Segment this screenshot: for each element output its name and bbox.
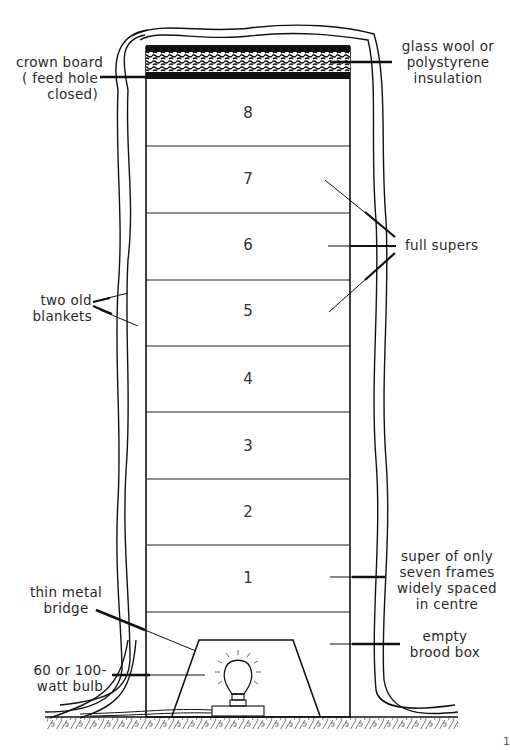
box-label-8: 8	[228, 104, 268, 122]
page-number: 1	[503, 735, 510, 748]
label-insulation: glass wool or polystyrene insulation	[392, 38, 504, 86]
box-label-7: 7	[228, 170, 268, 188]
label-blankets: two old blankets	[30, 292, 92, 324]
box-label-3: 3	[228, 437, 268, 455]
crown-board	[146, 72, 350, 79]
box-label-6: 6	[228, 236, 268, 254]
label-bulb: 60 or 100- watt bulb	[26, 662, 114, 694]
label-super-seven-frames: super of only seven frames widely spaced…	[388, 548, 506, 612]
roof-bar	[146, 45, 350, 52]
box-label-4: 4	[228, 370, 268, 388]
label-metal-bridge: thin metal bridge	[26, 584, 106, 616]
label-crown-board: crown board ( feed hole closed)	[16, 54, 98, 102]
box-label-1: 1	[228, 569, 268, 587]
label-full-supers: full supers	[405, 237, 478, 253]
box-label-5: 5	[228, 302, 268, 320]
ground	[45, 717, 458, 729]
label-brood-box: empty brood box	[400, 628, 490, 660]
insulation-layer	[146, 52, 350, 72]
box-label-2: 2	[228, 503, 268, 521]
